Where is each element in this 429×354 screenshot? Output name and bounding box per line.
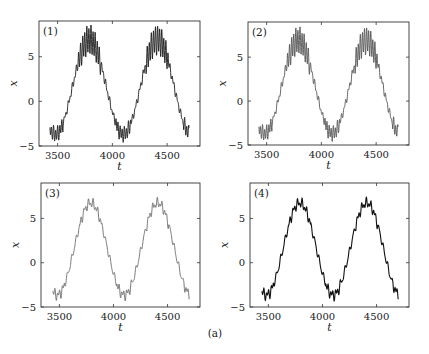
x-axis-label: t: [118, 321, 123, 334]
y-axis-label: x: [216, 80, 229, 87]
y-tick-label: 5: [30, 213, 36, 224]
x-axis-label: t: [117, 160, 122, 173]
x-tick-label: 3500: [45, 150, 70, 161]
panel-tag: (3): [45, 187, 60, 199]
y-tick-label: −5: [19, 141, 34, 152]
subplot-grid: 350040004500−505tx(1)350040004500−505tx(…: [7, 21, 409, 334]
subplot-3: 350040004500−505tx(3): [9, 183, 200, 334]
y-tick-label: −5: [228, 140, 243, 151]
y-tick-label: 0: [28, 96, 34, 107]
data-line: [262, 197, 398, 301]
x-tick-label: 3500: [254, 149, 279, 160]
x-tick-label: 4500: [363, 149, 388, 160]
subplot-1: 350040004500−505tx(1): [7, 21, 200, 173]
x-tick-label: 3500: [256, 311, 281, 322]
y-tick-label: 0: [239, 257, 245, 268]
subplot-2: 350040004500−505tx(2): [216, 22, 409, 172]
y-tick-label: 0: [237, 96, 243, 107]
y-tick-label: 5: [239, 213, 245, 224]
figure-canvas: 350040004500−505tx(1)350040004500−505tx(…: [0, 0, 429, 354]
y-axis-label: x: [9, 241, 22, 248]
panel-tag: (2): [252, 26, 267, 38]
axes-frame: [41, 183, 200, 307]
data-line: [259, 27, 398, 142]
y-tick-label: 0: [30, 257, 36, 268]
panel-tag: (1): [43, 25, 58, 37]
y-tick-label: −5: [230, 302, 245, 313]
figure-caption: (a): [208, 327, 222, 339]
y-axis-label: x: [7, 80, 20, 87]
panel-tag: (4): [254, 187, 269, 199]
y-tick-label: 5: [237, 52, 243, 63]
y-axis-label: x: [218, 241, 231, 248]
subplot-4: 350040004500−505tx(4): [218, 183, 409, 334]
x-tick-label: 4500: [155, 311, 180, 322]
x-tick-label: 4500: [154, 150, 179, 161]
data-line: [53, 197, 189, 301]
y-tick-label: −5: [21, 302, 36, 313]
y-tick-label: 5: [28, 51, 34, 62]
axes-frame: [250, 183, 409, 307]
data-line: [50, 25, 189, 142]
x-tick-label: 4500: [364, 311, 389, 322]
x-axis-label: t: [326, 159, 331, 172]
x-axis-label: t: [327, 321, 332, 334]
x-tick-label: 3500: [47, 311, 72, 322]
